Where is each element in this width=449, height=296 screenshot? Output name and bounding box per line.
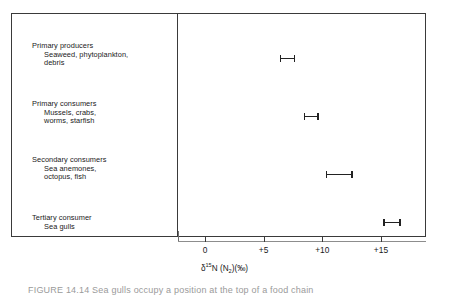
range-bar bbox=[304, 113, 319, 120]
range-bar-cap-high bbox=[399, 219, 400, 226]
range-bar bbox=[326, 171, 353, 178]
x-axis-tick-label: +5 bbox=[259, 245, 269, 255]
x-axis-left-stub bbox=[178, 231, 179, 241]
range-bar-line bbox=[383, 222, 401, 223]
trophic-organism-list: debris bbox=[32, 59, 128, 68]
x-axis-tick bbox=[381, 236, 382, 242]
range-bar-cap-low bbox=[304, 113, 305, 120]
trophic-label-column: Primary producersSeaweed, phytoplankton,… bbox=[12, 14, 176, 236]
x-axis-line bbox=[178, 241, 426, 242]
axis-title-close: )(‰) bbox=[232, 264, 248, 273]
trophic-group-label: Primary consumersMussels, crabs,worms, s… bbox=[32, 100, 97, 126]
range-bar-cap-high bbox=[317, 113, 318, 120]
x-axis-tick-label: +15 bbox=[374, 245, 388, 255]
trophic-organism-list: octopus, fish bbox=[32, 173, 106, 182]
range-bar bbox=[383, 219, 401, 226]
axis-title-open: (N bbox=[218, 264, 229, 273]
trophic-group-label: Tertiary consumerSea gulls bbox=[32, 214, 92, 231]
figure-caption-clip: FIGURE 14.14 Sea gulls occupy a position… bbox=[0, 286, 449, 296]
x-axis-tick-label: +10 bbox=[315, 245, 329, 255]
trophic-organism-list: Sea gulls bbox=[32, 223, 92, 232]
range-bar-cap-low bbox=[326, 171, 327, 178]
figure-caption: FIGURE 14.14 Sea gulls occupy a position… bbox=[28, 286, 314, 295]
x-axis-tick-label: 0 bbox=[203, 245, 208, 255]
range-bar-cap-high bbox=[351, 171, 352, 178]
trophic-group-label: Primary producersSeaweed, phytoplankton,… bbox=[32, 42, 128, 68]
x-axis-tick bbox=[205, 236, 206, 242]
trophic-group-label: Secondary consumersSea anemones,octopus,… bbox=[32, 156, 106, 182]
x-axis-title: δ15N (N2)(‰) bbox=[0, 262, 449, 274]
range-bar bbox=[280, 55, 295, 62]
range-bar-line bbox=[326, 174, 353, 175]
figure-container: Primary producersSeaweed, phytoplankton,… bbox=[0, 0, 449, 296]
x-axis-tick bbox=[322, 236, 323, 242]
range-bar-cap-low bbox=[383, 219, 384, 226]
range-bar-cap-high bbox=[294, 55, 295, 62]
trophic-organism-list: worms, starfish bbox=[32, 117, 97, 126]
range-bar-cap-low bbox=[280, 55, 281, 62]
x-axis-tick bbox=[264, 236, 265, 242]
plot-area bbox=[178, 14, 425, 236]
